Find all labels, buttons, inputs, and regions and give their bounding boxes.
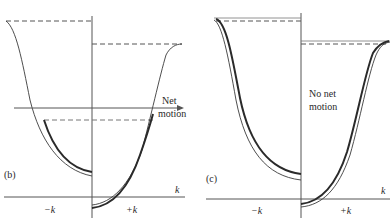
- k-axis-label-b: k: [175, 184, 180, 195]
- right-band-curve-c: [301, 42, 390, 207]
- panel-b: Net motion (b) k −k +k: [4, 16, 186, 218]
- right-occupied-curve-c: [301, 41, 389, 204]
- no-net-motion-label-1: No net: [309, 88, 336, 99]
- net-motion-label-2: motion: [158, 108, 186, 119]
- panel-label-c: (c): [206, 173, 217, 185]
- left-band-curve-b: [6, 21, 92, 176]
- left-occupied-curve-b: [44, 120, 92, 172]
- right-band-curve-b: [92, 44, 182, 205]
- neg-k-label-b: −k: [44, 204, 56, 215]
- right-occupied-curve-b: [92, 114, 153, 208]
- pos-k-label-b: +k: [126, 204, 138, 215]
- pos-k-label-c: +k: [340, 205, 352, 216]
- left-band-curve-c: [214, 20, 301, 180]
- net-motion-label-1: Net: [162, 95, 177, 106]
- band-diagram-figure: Net motion (b) k −k +k No net motion (c)…: [0, 0, 392, 220]
- k-axis-label-c: k: [381, 185, 386, 196]
- no-net-motion-label-2: motion: [309, 101, 337, 112]
- panel-label-b: (b): [4, 169, 16, 181]
- panel-c: No net motion (c) k −k +k: [206, 13, 390, 218]
- neg-k-label-c: −k: [251, 205, 263, 216]
- left-occupied-curve-c: [216, 19, 301, 174]
